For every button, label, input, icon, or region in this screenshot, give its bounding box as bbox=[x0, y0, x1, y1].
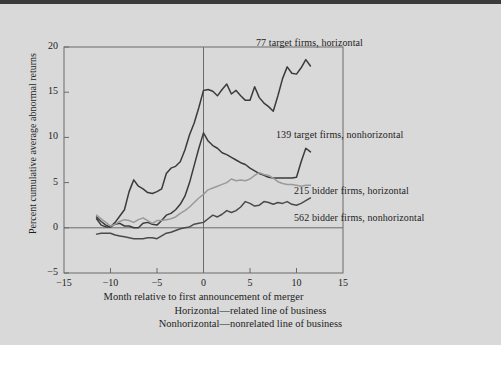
x-tick-label: −10 bbox=[91, 277, 131, 288]
series-label-bidder-nonhorizontal: 562 bidder firms, nonhorizontal bbox=[294, 212, 424, 223]
y-tick-label: 10 bbox=[32, 130, 58, 141]
y-axis-title: Percent cumulative average abnormal retu… bbox=[27, 44, 38, 244]
x-tick-label: −5 bbox=[137, 277, 177, 288]
note-nonhorizontal: Nonhorizontal—nonrelated line of busines… bbox=[0, 318, 501, 329]
series-label-target-nonhorizontal: 139 target firms, nonhorizontal bbox=[276, 129, 403, 140]
x-tick-label: −15 bbox=[44, 277, 84, 288]
series-label-target-horizontal: 77 target firms, horizontal bbox=[256, 37, 363, 48]
figure-bottom-margin bbox=[0, 345, 501, 370]
x-axis-title: Month relative to first announcement of … bbox=[0, 291, 407, 302]
x-tick-label: 15 bbox=[323, 277, 363, 288]
x-tick-label: 10 bbox=[277, 277, 317, 288]
note-horizontal: Horizontal—related line of business bbox=[0, 305, 501, 316]
y-tick-label: 5 bbox=[32, 176, 58, 187]
y-tick-label: 15 bbox=[32, 85, 58, 96]
x-tick-label: 0 bbox=[184, 277, 224, 288]
figure-panel: Percent cumulative average abnormal retu… bbox=[0, 0, 501, 370]
x-tick-label: 5 bbox=[230, 277, 270, 288]
y-tick-label: −5 bbox=[32, 266, 58, 277]
y-tick-label: 20 bbox=[32, 40, 58, 51]
y-tick-label: 0 bbox=[32, 221, 58, 232]
series-label-bidder-horizontal: 215 bidder firms, horizontal bbox=[294, 185, 409, 196]
